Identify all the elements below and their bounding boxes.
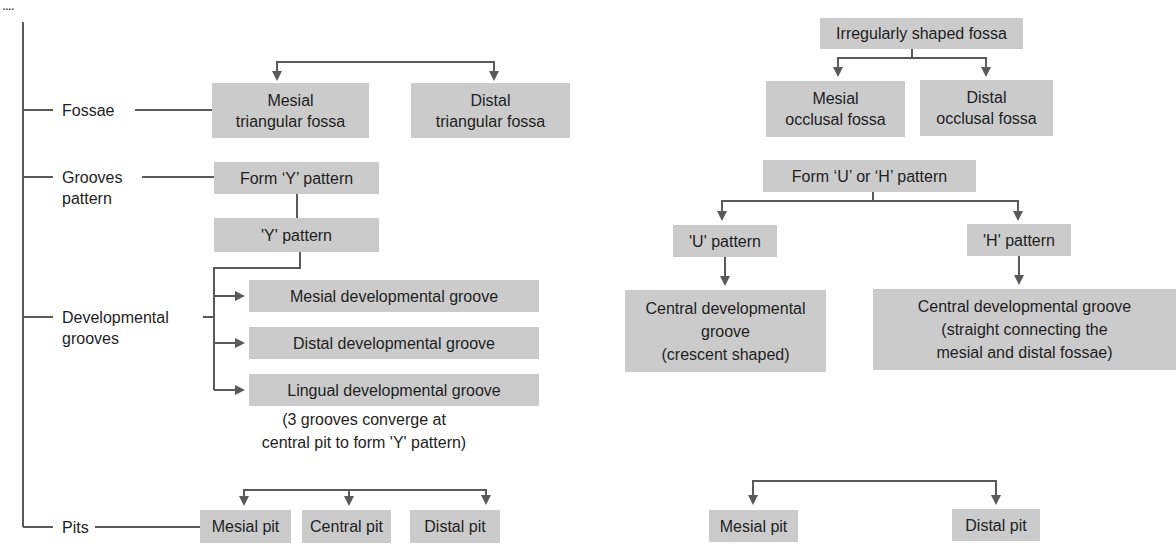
- category-fossae: Fossae: [62, 100, 114, 121]
- h-pattern-box: 'H' pattern: [967, 224, 1071, 256]
- mesial-triangular-fossa-box: Mesial triangular fossa: [212, 83, 369, 138]
- y-pattern-note: (3 grooves converge at central pit to fo…: [234, 408, 494, 454]
- category-developmental-grooves: Developmental grooves: [62, 307, 169, 349]
- irregular-fossa-box: Irregularly shaped fossa: [820, 18, 1023, 49]
- crescent-central-groove-box: Central developmental groove (crescent s…: [625, 290, 826, 372]
- left-mesial-pit-box: Mesial pit: [200, 510, 291, 543]
- left-central-pit-box: Central pit: [302, 510, 391, 543]
- category-grooves-pattern: Grooves pattern: [62, 167, 122, 209]
- u-pattern-box: 'U' pattern: [673, 225, 777, 257]
- form-y-pattern-box: Form ‘Y’ pattern: [214, 162, 379, 194]
- left-distal-pit-box: Distal pit: [410, 510, 500, 543]
- right-distal-pit-box: Distal pit: [952, 509, 1040, 541]
- lingual-developmental-groove-box: Lingual developmental groove: [249, 374, 539, 406]
- form-u-or-h-pattern-box: Form ‘U’ or ‘H’ pattern: [763, 160, 976, 192]
- category-pits: Pits: [62, 517, 89, 538]
- straight-central-groove-box: Central developmental groove (straight c…: [873, 289, 1176, 370]
- mesial-occlusal-fossa-box: Mesial occlusal fossa: [766, 81, 905, 137]
- mesial-developmental-groove-box: Mesial developmental groove: [249, 280, 539, 312]
- y-pattern-box: 'Y' pattern: [214, 218, 379, 252]
- distal-occlusal-fossa-box: Distal occlusal fossa: [920, 80, 1053, 136]
- distal-triangular-fossa-box: Distal triangular fossa: [411, 83, 570, 138]
- right-mesial-pit-box: Mesial pit: [709, 510, 798, 542]
- distal-developmental-groove-box: Distal developmental groove: [249, 327, 539, 359]
